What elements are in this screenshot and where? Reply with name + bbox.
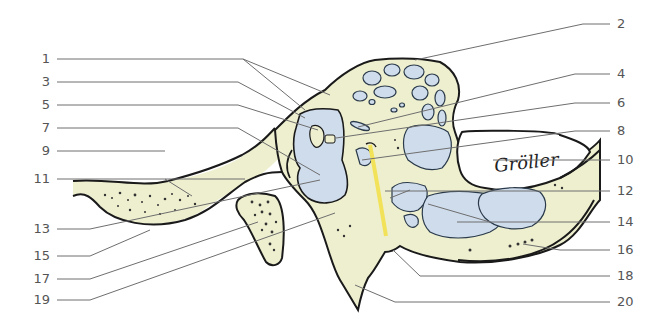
- label-7: 7: [24, 121, 50, 135]
- ossicles: [310, 125, 324, 147]
- label-2: 2: [617, 17, 625, 31]
- label-10: 10: [617, 153, 634, 167]
- label-6: 6: [617, 96, 625, 110]
- label-13: 13: [24, 222, 50, 236]
- stapes: [325, 135, 335, 143]
- label-15: 15: [24, 249, 50, 263]
- label-9: 9: [24, 144, 50, 158]
- label-8: 8: [617, 124, 625, 138]
- label-18: 18: [617, 269, 634, 283]
- anatomy-diagram: Gröller: [0, 0, 666, 328]
- label-20: 20: [617, 295, 634, 309]
- label-19: 19: [24, 293, 50, 307]
- label-17: 17: [24, 272, 50, 286]
- label-14: 14: [617, 215, 634, 229]
- label-12: 12: [617, 184, 634, 198]
- label-4: 4: [617, 67, 625, 81]
- tympanic-cavity: [294, 109, 348, 203]
- label-1: 1: [24, 52, 50, 66]
- label-11: 11: [24, 172, 50, 186]
- label-3: 3: [24, 75, 50, 89]
- label-16: 16: [617, 243, 634, 257]
- label-5: 5: [24, 98, 50, 112]
